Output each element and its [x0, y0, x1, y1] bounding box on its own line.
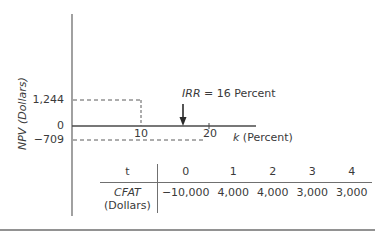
cash-flow-table: t 0 1 2 3 4 CFAT (Dollars) −10,000 4,000…	[100, 164, 372, 213]
cfat-4: 3,000	[332, 183, 372, 214]
irr-arrow-head	[180, 117, 187, 126]
period-4: 4	[332, 164, 372, 183]
y-tick-0: 0	[24, 119, 64, 132]
irr-label: IRR	[182, 87, 201, 100]
irr-annotation: IRR = 16 Percent	[182, 87, 276, 100]
cfat-unit: (Dollars)	[104, 199, 151, 212]
x-axis-title-unit: (Percent)	[239, 131, 292, 144]
cfat-2: 4,000	[253, 183, 293, 214]
cfat-label: CFAT	[114, 186, 141, 199]
cfat-0: −10,000	[157, 183, 213, 214]
table-row-cfat: CFAT (Dollars) −10,000 4,000 4,000 3,000…	[100, 183, 372, 214]
period-3: 3	[293, 164, 333, 183]
period-0: 0	[157, 164, 213, 183]
y-tick-neg709: −709	[24, 133, 64, 146]
cfat-1: 4,000	[214, 183, 254, 214]
table-row-period: t 0 1 2 3 4	[100, 164, 372, 183]
period-1: 1	[214, 164, 254, 183]
x-tick-10: 10	[134, 127, 148, 140]
x-tick-20: 20	[203, 127, 217, 140]
table-header-cfat: CFAT (Dollars)	[100, 183, 157, 214]
x-axis-title: k (Percent)	[233, 131, 293, 144]
y-tick-1244: 1,244	[24, 93, 64, 106]
cfat-3: 3,000	[293, 183, 333, 214]
period-2: 2	[253, 164, 293, 183]
irr-value: = 16 Percent	[201, 87, 276, 100]
table-header-t: t	[100, 164, 157, 183]
